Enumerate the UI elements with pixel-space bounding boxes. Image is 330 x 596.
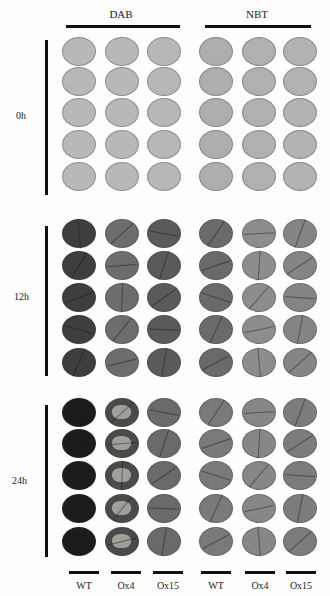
leaf-disc <box>62 98 96 127</box>
leaf-disc <box>105 283 139 312</box>
leaf-disc <box>242 315 276 344</box>
leaf-disc <box>105 348 139 377</box>
leaf-disc <box>199 527 233 556</box>
leaf-disc <box>147 429 181 458</box>
leaf-disc <box>147 398 181 427</box>
leaf-disc <box>242 37 276 66</box>
leaf-disc <box>105 37 139 66</box>
leaf-disc <box>199 494 233 523</box>
stain-label-nbt: NBT <box>202 8 312 20</box>
leaf-disc <box>199 315 233 344</box>
leaf-disc <box>283 348 317 377</box>
leaf-disc <box>242 348 276 377</box>
leaf-disc <box>283 130 317 159</box>
leaf-disc <box>105 98 139 127</box>
leaf-disc <box>62 494 96 523</box>
timepoint-label-12h: 12h <box>14 291 29 302</box>
genotype-label: WT <box>64 580 104 591</box>
leaf-disc <box>147 130 181 159</box>
timepoint-bar-24h <box>45 405 48 557</box>
leaf-disc <box>199 37 233 66</box>
leaf-disc <box>199 251 233 280</box>
leaf-disc <box>283 398 317 427</box>
leaf-disc <box>147 219 181 248</box>
leaf-disc <box>242 429 276 458</box>
leaf-disc <box>283 429 317 458</box>
leaf-disc <box>242 130 276 159</box>
leaf-disc <box>105 219 139 248</box>
leaf-disc <box>62 130 96 159</box>
leaf-disc <box>242 162 276 191</box>
leaf-disc <box>62 67 96 96</box>
leaf-disc <box>62 348 96 377</box>
leaf-disc <box>199 429 233 458</box>
genotype-bar <box>111 571 141 574</box>
leaf-disc <box>242 251 276 280</box>
leaf-disc <box>199 67 233 96</box>
genotype-label: Ox4 <box>106 580 146 591</box>
genotype-bar <box>153 571 183 574</box>
leaf-disc <box>62 398 96 427</box>
leaf-disc <box>242 98 276 127</box>
leaf-disc <box>242 398 276 427</box>
leaf-disc <box>105 251 139 280</box>
genotype-label: Ox15 <box>148 580 188 591</box>
leaf-disc <box>62 429 96 458</box>
leaf-disc <box>105 315 139 344</box>
timepoint-bar-12h <box>45 226 48 376</box>
leaf-disc <box>62 527 96 556</box>
leaf-disc <box>199 461 233 490</box>
leaf-disc <box>105 527 139 556</box>
leaf-disc <box>147 527 181 556</box>
leaf-disc <box>283 283 317 312</box>
leaf-disc <box>283 494 317 523</box>
genotype-bar <box>69 571 99 574</box>
stain-label-dab: DAB <box>66 8 176 20</box>
leaf-disc <box>147 494 181 523</box>
genotype-label: Ox15 <box>281 580 321 591</box>
leaf-disc <box>62 283 96 312</box>
leaf-disc <box>199 348 233 377</box>
leaf-disc <box>62 37 96 66</box>
leaf-disc <box>242 461 276 490</box>
leaf-disc <box>147 67 181 96</box>
leaf-disc <box>242 219 276 248</box>
leaf-disc <box>242 67 276 96</box>
leaf-disc <box>105 130 139 159</box>
leaf-disc <box>199 98 233 127</box>
leaf-disc <box>242 494 276 523</box>
leaf-disc <box>62 251 96 280</box>
leaf-disc <box>283 315 317 344</box>
leaf-disc <box>147 251 181 280</box>
leaf-disc <box>283 219 317 248</box>
leaf-disc <box>62 315 96 344</box>
leaf-disc <box>199 283 233 312</box>
leaf-disc <box>199 162 233 191</box>
leaf-disc <box>62 219 96 248</box>
leaf-disc <box>283 37 317 66</box>
leaf-disc <box>199 398 233 427</box>
leaf-disc <box>283 162 317 191</box>
leaf-disc <box>105 67 139 96</box>
genotype-bar <box>201 571 231 574</box>
genotype-label: WT <box>196 580 236 591</box>
leaf-disc <box>242 283 276 312</box>
leaf-disc <box>105 398 139 427</box>
leaf-disc <box>147 162 181 191</box>
genotype-bar <box>245 571 275 574</box>
timepoint-label-0h: 0h <box>16 110 26 121</box>
timepoint-label-24h: 24h <box>12 475 27 486</box>
leaf-disc <box>105 494 139 523</box>
genotype-bar <box>286 571 316 574</box>
timepoint-bar-0h <box>45 40 48 195</box>
leaf-disc <box>105 429 139 458</box>
leaf-disc <box>147 98 181 127</box>
leaf-disc <box>62 461 96 490</box>
leaf-disc <box>199 219 233 248</box>
leaf-disc <box>283 461 317 490</box>
leaf-disc <box>147 348 181 377</box>
leaf-disc <box>105 461 139 490</box>
leaf-disc <box>147 37 181 66</box>
leaf-disc <box>147 461 181 490</box>
leaf-disc <box>199 130 233 159</box>
